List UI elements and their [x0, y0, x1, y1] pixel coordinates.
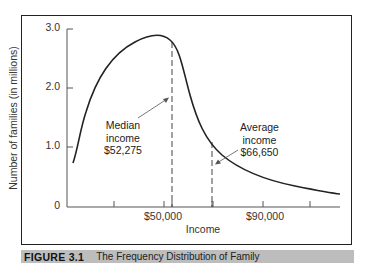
- median-annotation: Median income $52,275: [104, 119, 142, 157]
- y-axis-label: Number of families (in millions): [7, 46, 19, 190]
- average-annotation: Average income $66,650: [240, 121, 279, 159]
- average-label-line1: Average: [240, 121, 279, 134]
- ytick-2: 2.0: [30, 80, 60, 92]
- figure-number: FIGURE 3.1: [21, 251, 84, 263]
- median-label-line1: Median: [104, 119, 142, 132]
- median-label-value: $52,275: [104, 144, 142, 157]
- xtick-50000: $50,000: [133, 210, 193, 222]
- figure-caption: FIGURE 3.1 The Frequency Distribution of…: [21, 250, 354, 263]
- figure-title: The Frequency Distribution of Family: [84, 251, 259, 262]
- average-label-value: $66,650: [240, 146, 279, 159]
- y-ticks: [67, 29, 73, 147]
- average-label-line2: income: [240, 134, 279, 147]
- distribution-curve: [73, 35, 340, 194]
- ytick-1: 1.0: [30, 139, 60, 151]
- median-arrow: [138, 98, 169, 119]
- x-axis-label: Income: [163, 223, 243, 235]
- ytick-0: 0: [30, 199, 60, 211]
- median-label-line2: income: [104, 132, 142, 145]
- ytick-3: 3.0: [30, 21, 60, 33]
- xtick-90000: $90,000: [235, 210, 295, 222]
